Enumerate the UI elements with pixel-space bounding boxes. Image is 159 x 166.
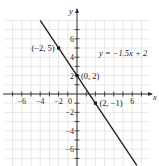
y-tick-label: 2 bbox=[70, 72, 74, 81]
x-tick-label: −4 bbox=[36, 97, 45, 106]
data-point-label: (2, −1) bbox=[99, 98, 122, 108]
y-tick-label: 6 bbox=[70, 35, 74, 44]
x-tick-label: −6 bbox=[18, 97, 27, 106]
x-axis-label: x bbox=[152, 92, 157, 102]
data-point-label: (0, 2) bbox=[81, 71, 100, 81]
y-tick-label: 4 bbox=[70, 53, 74, 62]
data-point-label: (−2, 5) bbox=[31, 43, 54, 53]
linear-function-graph: −6−4−206642−2−4−6 (−2, 5)(0, 2)(2, −1) y… bbox=[0, 0, 159, 166]
data-point-marker bbox=[94, 102, 97, 105]
y-tick-label: −6 bbox=[65, 145, 74, 154]
y-axis-label: y bbox=[68, 6, 73, 16]
data-point-marker bbox=[57, 46, 60, 49]
y-tick-label: −4 bbox=[65, 127, 74, 136]
function-line-segment bbox=[40, 20, 137, 165]
x-tick-label: 0 bbox=[68, 97, 72, 106]
y-axis-arrow-icon bbox=[75, 8, 79, 13]
axes bbox=[3, 8, 153, 166]
y-tick-label: −2 bbox=[65, 108, 74, 117]
equation-label: y = −1.5x + 2 bbox=[98, 48, 148, 58]
x-tick-label: 6 bbox=[130, 97, 134, 106]
function-line bbox=[40, 20, 137, 165]
data-point-marker bbox=[75, 74, 78, 77]
x-tick-label: −2 bbox=[54, 97, 63, 106]
